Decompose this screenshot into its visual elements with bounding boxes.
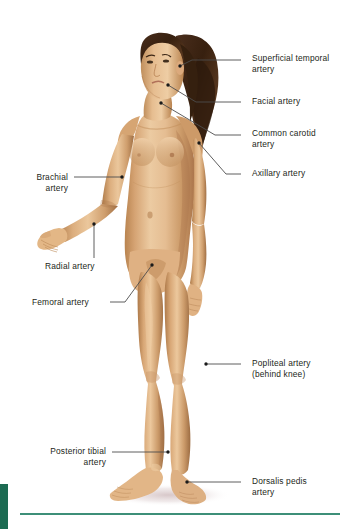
leader-dot-brachial-artery (120, 175, 123, 178)
label-common-carotid-artery: Common carotid artery (252, 128, 316, 150)
leader-dot-dorsalis-pedis-artery (185, 480, 188, 483)
bottom-rule (20, 513, 340, 515)
leader-dot-facial-artery (166, 83, 169, 86)
eye-left (147, 60, 153, 63)
ear (176, 61, 184, 75)
label-popliteal-artery: Popliteal artery (behind knee) (252, 358, 311, 380)
label-facial-artery: Facial artery (252, 96, 300, 107)
leader-dot-common-carotid-artery (159, 101, 162, 104)
leader-dot-radial-artery (92, 222, 95, 225)
label-posterior-tibial-artery: Posterior tibial artery (22, 446, 106, 468)
leader-dot-superficial-temporal-artery (178, 64, 181, 67)
leader-line-axillary-artery (199, 143, 241, 174)
arm-forearm-right (190, 222, 206, 288)
knee-right (172, 373, 186, 384)
arm-upper-right (192, 138, 206, 225)
navel (147, 212, 152, 219)
leader-dot-popliteal-artery (204, 362, 207, 365)
leader-dot-axillary-artery (197, 141, 200, 144)
breast-right (156, 137, 184, 167)
label-radial-artery: Radial artery (45, 261, 95, 272)
label-femoral-artery: Femoral artery (32, 297, 89, 308)
label-axillary-artery: Axillary artery (252, 168, 305, 179)
knee-left (146, 371, 160, 382)
label-dorsalis-pedis-artery: Dorsalis pedis artery (252, 476, 307, 498)
eye-right (163, 59, 169, 62)
nipple-left (137, 153, 141, 157)
nipple-right (170, 153, 175, 158)
green-accent-bar (0, 484, 8, 529)
breast-left (129, 138, 155, 166)
leader-dot-posterior-tibial-artery (166, 450, 169, 453)
label-brachial-artery: Brachial artery (18, 172, 68, 194)
label-superficial-temporal-artery: Superficial temporal artery (252, 53, 329, 75)
leader-dot-femoral-artery (150, 263, 153, 266)
hand-left (37, 228, 67, 250)
